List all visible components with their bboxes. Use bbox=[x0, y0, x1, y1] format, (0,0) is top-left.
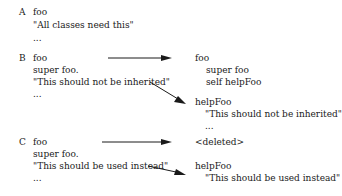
arrow-c-helpfoo bbox=[148, 166, 186, 175]
arrow-c-deleted bbox=[102, 139, 172, 145]
arrow-b-foo bbox=[108, 55, 172, 61]
arrow-b-helpfoo bbox=[150, 82, 186, 104]
